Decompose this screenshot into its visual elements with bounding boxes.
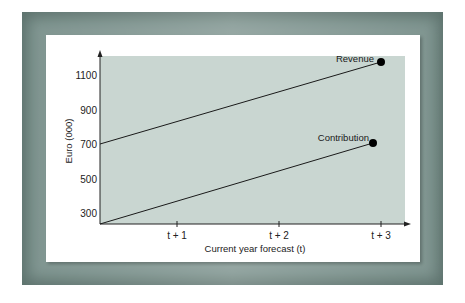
x-tick-t-plus-1: t + 1 — [167, 230, 187, 241]
y-tick-1100: 1100 — [75, 70, 97, 81]
x-tick-labels: t + 1 t + 2 t + 3 — [167, 230, 391, 241]
y-axis-arrow-icon — [98, 50, 103, 57]
y-tick-labels: 1100 900 700 500 300 — [75, 70, 97, 219]
y-tick-700: 700 — [80, 139, 97, 150]
x-axis-title: Current year forecast (t) — [205, 243, 306, 254]
x-tick-t-plus-3: t + 3 — [371, 230, 391, 241]
revenue-end-dot-icon — [377, 58, 385, 66]
contribution-end-dot-icon — [369, 139, 377, 147]
line-chart: 1100 900 700 500 300 t + 1 t + 2 t + 3 C… — [0, 0, 465, 303]
x-tick-t-plus-2: t + 2 — [269, 230, 289, 241]
x-axis-arrow-icon — [404, 222, 411, 227]
y-tick-300: 300 — [80, 208, 97, 219]
contribution-label: Contribution — [318, 132, 369, 143]
y-tick-500: 500 — [80, 174, 97, 185]
revenue-label: Revenue — [336, 53, 374, 64]
y-axis-title: Euro (000) — [63, 119, 74, 164]
y-tick-900: 900 — [80, 105, 97, 116]
